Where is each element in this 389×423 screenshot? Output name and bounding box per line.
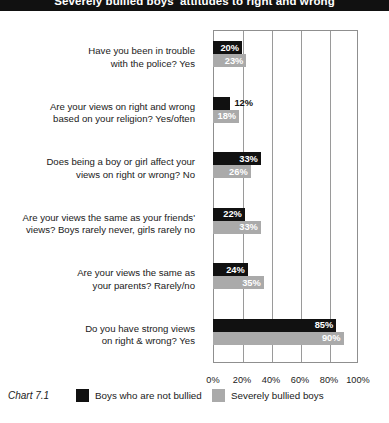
bar-not-bullied: 22%: [213, 208, 245, 221]
x-tick-label: 100%: [346, 375, 370, 385]
bar-not-bullied: 33%: [213, 152, 261, 165]
bar-not-bullied: 24%: [213, 263, 248, 276]
bar-value-label: 35%: [242, 278, 264, 288]
bar-severely-bullied: 23%: [213, 54, 246, 67]
bar-group: 24%35%: [213, 252, 358, 308]
x-tick-label: 80%: [320, 375, 338, 385]
category-label-line: Does being a boy or girl affect your: [46, 156, 195, 168]
category-label: Does being a boy or girl affect yourview…: [0, 141, 203, 197]
bar-severely-bullied: 33%: [213, 221, 261, 234]
x-tick-label: 20%: [233, 375, 251, 385]
category-label-line: based on your religion? Yes/often: [53, 113, 195, 125]
category-label-line: Have you been in trouble: [88, 45, 195, 57]
chart-legend: Chart 7.1 Boys who are not bulliedSevere…: [0, 388, 389, 406]
category-label-line: Are your views the same as your friends': [23, 212, 195, 224]
chart-row: Do you have strong viewson right & wrong…: [0, 308, 389, 364]
category-label-line: Are your views on right and wrong: [50, 101, 195, 113]
bar-severely-bullied: 26%: [213, 165, 251, 178]
bar-group: 12%18%: [213, 86, 358, 142]
bar-not-bullied: 12%: [213, 97, 230, 110]
x-tick-label: 40%: [262, 375, 280, 385]
bar-value-label: 18%: [217, 111, 239, 121]
bar-group: 20%23%: [213, 30, 358, 86]
chart-row: Have you been in troublewith the police?…: [0, 30, 389, 86]
page-title: Severely bullied boys' attitudes to righ…: [54, 0, 335, 7]
bar-group: 22%33%: [213, 197, 358, 253]
legend-label: Boys who are not bullied: [95, 390, 202, 401]
chart-row: Are your views the same as your friends'…: [0, 197, 389, 253]
legend-item: Boys who are not bullied: [76, 389, 202, 402]
legend-label: Severely bullied boys: [231, 390, 324, 401]
chart-number: Chart 7.1: [8, 390, 49, 401]
chart-area: Have you been in troublewith the police?…: [0, 12, 389, 372]
category-label-line: your parents? Rarely/no: [93, 280, 195, 292]
legend-swatch: [212, 389, 225, 402]
category-label-line: views? Boys rarely never, girls rarely n…: [26, 224, 195, 236]
bar-severely-bullied: 35%: [213, 276, 264, 289]
bar-value-label: 20%: [220, 43, 242, 53]
bar-value-label: 85%: [315, 320, 337, 330]
chart-row: Are your views on right and wrongbased o…: [0, 86, 389, 142]
bar-not-bullied: 85%: [213, 319, 336, 332]
category-label: Are your views the same as your friends'…: [0, 197, 203, 253]
chart-row: Does being a boy or girl affect yourview…: [0, 141, 389, 197]
bar-severely-bullied: 18%: [213, 110, 239, 123]
bar-value-label: 26%: [229, 167, 251, 177]
category-label-line: Do you have strong views: [85, 323, 195, 335]
legend-item: Severely bullied boys: [212, 389, 324, 402]
chart-title-banner: Severely bullied boys' attitudes to righ…: [0, 0, 389, 11]
bar-value-label: 22%: [223, 209, 245, 219]
bar-not-bullied: 20%: [213, 41, 242, 54]
category-label-line: on right & wrong? Yes: [102, 335, 195, 347]
category-label-line: with the police? Yes: [111, 58, 195, 70]
x-tick-label: 0%: [206, 375, 219, 385]
legend-swatch: [76, 389, 89, 402]
bar-value-label: 90%: [322, 333, 344, 343]
x-tick-label: 60%: [291, 375, 309, 385]
category-label: Have you been in troublewith the police?…: [0, 30, 203, 86]
category-label: Are your views on right and wrongbased o…: [0, 86, 203, 142]
bar-group: 33%26%: [213, 141, 358, 197]
category-label-line: Are your views the same as: [77, 267, 195, 279]
category-label-line: views on right or wrong? No: [76, 169, 195, 181]
bar-value-label: 33%: [239, 154, 261, 164]
category-label: Do you have strong viewson right & wrong…: [0, 308, 203, 364]
bar-value-label: 24%: [226, 265, 248, 275]
bar-severely-bullied: 90%: [213, 332, 344, 345]
bar-value-label: 12%: [230, 98, 253, 108]
bar-value-label: 33%: [239, 222, 261, 232]
bar-group: 85%90%: [213, 308, 358, 364]
bar-value-label: 23%: [225, 56, 247, 66]
category-label: Are your views the same asyour parents? …: [0, 252, 203, 308]
chart-row: Are your views the same asyour parents? …: [0, 252, 389, 308]
